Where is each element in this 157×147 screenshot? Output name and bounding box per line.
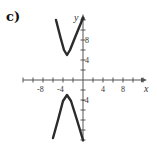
y-tick-label: 8 — [85, 36, 89, 45]
x-tick-label: 4 — [101, 85, 105, 94]
x-tick-label: 8 — [121, 85, 125, 94]
x-tick-label: -8 — [37, 85, 44, 94]
curve-branch — [53, 95, 83, 140]
curve-branch — [56, 18, 83, 55]
y-tick-label: 4 — [85, 56, 89, 65]
chart: -8 -4 4 8 4 8 -4 x y — [0, 0, 157, 147]
y-axis-label: y — [73, 12, 79, 23]
y-tick-label: -4 — [82, 96, 89, 105]
x-axis-arrow-icon — [141, 78, 147, 83]
curves — [53, 18, 83, 140]
x-axis-label: x — [143, 83, 149, 94]
x-tick-label: -4 — [57, 85, 64, 94]
